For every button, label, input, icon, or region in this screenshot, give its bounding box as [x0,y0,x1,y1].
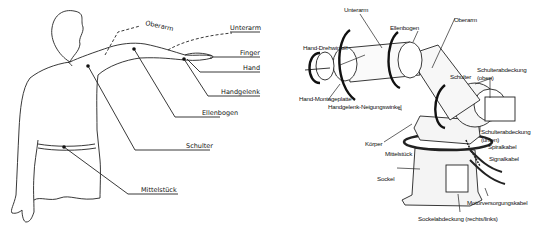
label-hand-montageplatte: Hand-Montageplatte [299,95,351,103]
label-finger: Finger [240,49,260,57]
label-ellenbogen: Ellenbogen [202,109,238,117]
label-robot-schulter: Schulter [450,73,471,81]
label-hand-drehwinkel: Hand-Drehwinkel [303,44,347,52]
label-sockel: Sockel [377,175,394,183]
label-signalkabel: Signalkabel [489,155,519,163]
label-koerper: Körper [365,140,382,148]
label-robot-ellenbogen: Ellenbogen [390,24,419,32]
label-mittelstueck: Mittelstück [141,186,177,194]
label-hand: Hand [243,64,260,72]
label-schulterabdeckung-unten-1: Schulterabdeckung [481,128,531,136]
label-schulterabdeckung-oben-1: Schulterabdeckung [477,66,527,74]
label-robot-mittelstueck: Mittelstück [385,150,412,158]
label-handgelenk-neigungswinkel: Handgelenk-Neigungswinkel [328,103,401,111]
label-handgelenk: Handgelenk [221,88,260,96]
label-sockelabdeckung: Sockelabdeckung (rechts/links) [418,215,498,223]
label-spiralkabel: Spiralkabel [488,143,516,151]
label-robot-unterarm: Unterarm [344,6,368,14]
label-motorversorgungskabel: Motorversorgungskabel [467,199,527,207]
label-schulterabdeckung-oben-2: (oben) [477,74,494,82]
label-unterarm: Unterarm [230,24,261,32]
label-robot-oberarm: Oberarm [454,16,477,24]
label-schulter: Schulter [186,142,213,150]
